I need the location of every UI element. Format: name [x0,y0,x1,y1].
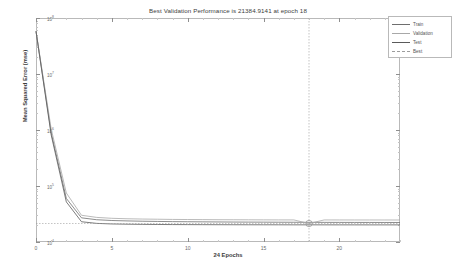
x-tick-label: 5 [110,245,113,251]
legend-item-best[interactable]: Best [392,47,448,56]
x-tick-label: 0 [35,245,38,251]
legend-line-icon [392,41,410,45]
legend-item-train[interactable]: Train [392,20,448,29]
legend-item-test[interactable]: Test [392,38,448,47]
x-tick-label: 15 [261,245,267,251]
data-lines [36,18,400,242]
x-axis-label: 24 Epochs [0,252,456,258]
legend-line-icon [392,32,410,36]
chart-title: Best Validation Performance is 21384.914… [0,7,456,14]
legend-item-validation[interactable]: Validation [392,29,448,38]
series-line-train [36,31,400,222]
y-tick-mark [396,242,400,243]
legend-line-icon [392,23,410,27]
legend: TrainValidationTestBest [388,16,452,58]
x-tick-label: 20 [337,245,343,251]
legend-label: Train [413,22,423,27]
x-tick-label: 10 [185,245,191,251]
performance-figure: Best Validation Performance is 21384.914… [0,0,456,275]
series-line-validation [36,31,400,223]
y-axis-label: Mean Squared Error (mse) [22,16,28,156]
legend-label: Best [413,49,422,54]
series-line-test [36,31,400,225]
legend-line-icon [392,50,410,54]
x-tick-minor [400,240,401,242]
legend-label: Test [413,40,421,45]
legend-label: Validation [413,31,433,36]
